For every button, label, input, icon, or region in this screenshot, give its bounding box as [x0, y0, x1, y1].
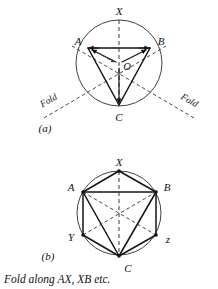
- part-b-label-c: C: [124, 262, 132, 274]
- part-a-label-c: C: [115, 111, 123, 123]
- part-b-vertex-dot-c: [117, 254, 121, 258]
- part-b-label-y: Y: [68, 231, 76, 243]
- part-b-vertex-dot-b: [154, 190, 158, 194]
- part-a-label-x: X: [115, 5, 124, 17]
- part-a-fold-label-right: Fold: [178, 91, 200, 109]
- part-b-caption-label: (b): [42, 250, 55, 263]
- part-b-label-x: X: [115, 156, 124, 168]
- part-b-group: X B z C Y A (b): [42, 156, 171, 274]
- part-b-edge-ax: [83, 171, 119, 192]
- geometry-diagram: X A B C O Fold Fold (a): [0, 0, 218, 289]
- part-a-caption-label: (a): [39, 122, 52, 135]
- part-b-vertex-dot-a: [81, 190, 85, 194]
- part-b-label-b: B: [164, 181, 171, 193]
- figure-root: X A B C O Fold Fold (a): [0, 0, 218, 289]
- part-a-group: X A B C O Fold Fold (a): [37, 5, 200, 135]
- part-b-vertex-dot-y: [81, 233, 85, 237]
- part-a-label-o: O: [123, 61, 131, 72]
- figure-caption: Fold along AX, XB etc.: [3, 273, 110, 286]
- part-b-label-a: A: [67, 181, 75, 193]
- part-a-label-b: B: [158, 35, 165, 47]
- part-b-edge-xb: [119, 171, 156, 192]
- part-a-fold-label-left: Fold: [37, 91, 59, 109]
- part-b-label-z: z: [165, 233, 171, 245]
- part-a-label-a: A: [74, 35, 82, 47]
- part-b-vertex-dot-z: [154, 233, 158, 237]
- part-b-vertex-dot-x: [117, 169, 121, 173]
